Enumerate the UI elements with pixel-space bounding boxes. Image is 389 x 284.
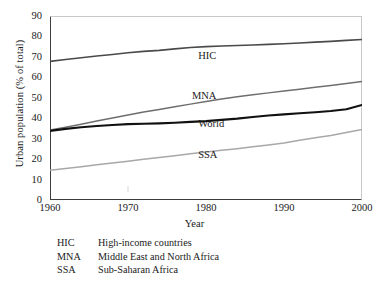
- legend-description: Middle East and North Africa: [98, 250, 219, 264]
- legend-row: MNAMiddle East and North Africa: [57, 250, 219, 264]
- series-label-world: World: [198, 119, 224, 130]
- x-axis-title: Year: [0, 218, 389, 229]
- series-label-ssa: SSA: [198, 150, 217, 161]
- x-tick-label: 1960: [25, 203, 75, 214]
- legend-row: HICHigh-income countries: [57, 236, 219, 250]
- urban-population-chart: Urban population (% of total) 0102030405…: [0, 0, 389, 284]
- x-tick-label: 1990: [259, 203, 309, 214]
- x-tick-label: 1980: [181, 203, 231, 214]
- plot-area: [50, 16, 362, 200]
- y-tick-label: 80: [20, 31, 42, 42]
- y-tick-label: 90: [20, 11, 42, 22]
- y-tick-label: 50: [20, 93, 42, 104]
- legend-description: High-income countries: [98, 236, 192, 250]
- legend-row: SSASub-Saharan Africa: [57, 263, 219, 277]
- y-tick-label: 40: [20, 113, 42, 124]
- legend-abbr: HIC: [57, 236, 98, 250]
- y-tick-label: 20: [20, 154, 42, 165]
- series-label-mna: MNA: [192, 91, 217, 102]
- y-tick-label: 30: [20, 134, 42, 145]
- series-label-hic: HIC: [198, 51, 216, 62]
- legend-abbr: MNA: [57, 250, 98, 264]
- legend-abbr: SSA: [57, 263, 98, 277]
- y-tick-label: 70: [20, 52, 42, 63]
- x-tick-label: 2000: [337, 203, 387, 214]
- legend: HICHigh-income countriesMNAMiddle East a…: [57, 236, 219, 277]
- y-tick-label: 10: [20, 175, 42, 186]
- legend-description: Sub-Saharan Africa: [98, 263, 178, 277]
- x-tick-label: 1970: [103, 203, 153, 214]
- y-tick-label: 60: [20, 72, 42, 83]
- plot-svg: [50, 16, 362, 200]
